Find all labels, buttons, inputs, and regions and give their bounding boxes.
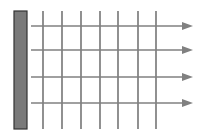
arrow bbox=[31, 46, 193, 54]
arrow-head-icon bbox=[182, 73, 193, 81]
vertical-lines bbox=[43, 11, 156, 129]
arrow bbox=[31, 99, 193, 107]
arrow-head-icon bbox=[182, 46, 193, 54]
vertical-bar bbox=[14, 11, 27, 129]
arrow-head-icon bbox=[182, 99, 193, 107]
arrow bbox=[31, 73, 193, 81]
horizontal-arrows bbox=[31, 22, 193, 107]
arrow-head-icon bbox=[182, 22, 193, 30]
diagram-canvas bbox=[0, 0, 205, 138]
bar-rect bbox=[14, 11, 27, 129]
arrow bbox=[31, 22, 193, 30]
